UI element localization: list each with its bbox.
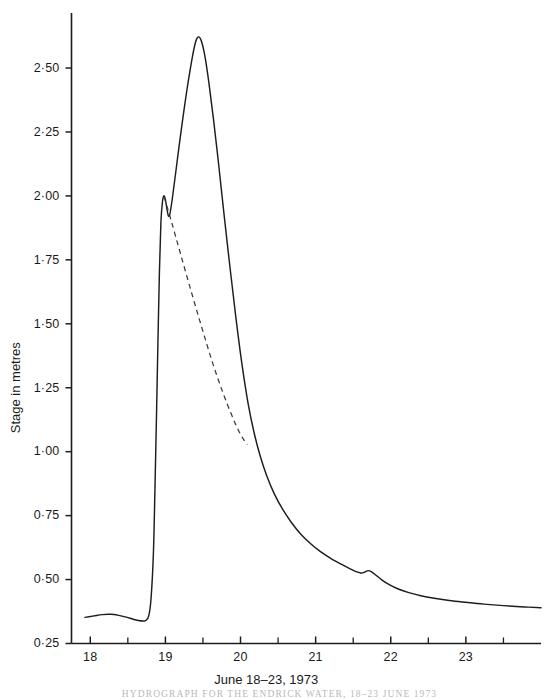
y-axis-tick-label: 2·25 [34,125,60,139]
y-axis-tick-label: 0·50 [34,572,60,586]
y-axis-tick-label: 2·00 [34,189,60,203]
y-axis-tick-label: 1·00 [34,444,60,458]
y-axis-title: Stage in metres [8,342,23,434]
x-axis-title: June 18–23, 1973 [214,672,318,687]
x-axis-tick-label: 21 [308,650,322,664]
x-axis-tick-label: 18 [83,650,97,664]
y-axis-tick-label: 1·75 [34,253,60,267]
y-axis-tick-label: 1·25 [34,381,60,395]
x-axis-tick-label: 23 [459,650,473,664]
inferred-recession-line [164,197,247,444]
y-axis-tick-group: 0·250·500·751·001·251·501·752·002·252·50 [34,61,72,650]
figure-caption: HYDROGRAPH FOR THE ENDRICK WATER, 18–23 … [0,688,559,699]
y-axis-tick-label: 0·25 [34,636,60,650]
x-axis-tick-label: 20 [233,650,247,664]
y-axis-tick-label: 2·50 [34,61,60,75]
hydrograph-chart: 0·250·500·751·001·251·501·752·002·252·50… [0,0,559,699]
y-axis-tick-label: 0·75 [34,508,60,522]
x-axis-tick-label: 19 [158,650,172,664]
stage-hydrograph-line [85,37,541,621]
y-axis-tick-label: 1·50 [34,317,60,331]
x-axis-tick-label: 22 [384,650,398,664]
hydrograph-figure: 0·250·500·751·001·251·501·752·002·252·50… [0,0,559,699]
